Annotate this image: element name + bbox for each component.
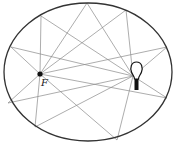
ellipse-reflection-diagram xyxy=(0,0,174,145)
ellipse-boundary xyxy=(4,3,172,141)
rays xyxy=(8,3,167,140)
focus-point xyxy=(37,71,42,76)
focus-label: F xyxy=(41,77,48,88)
